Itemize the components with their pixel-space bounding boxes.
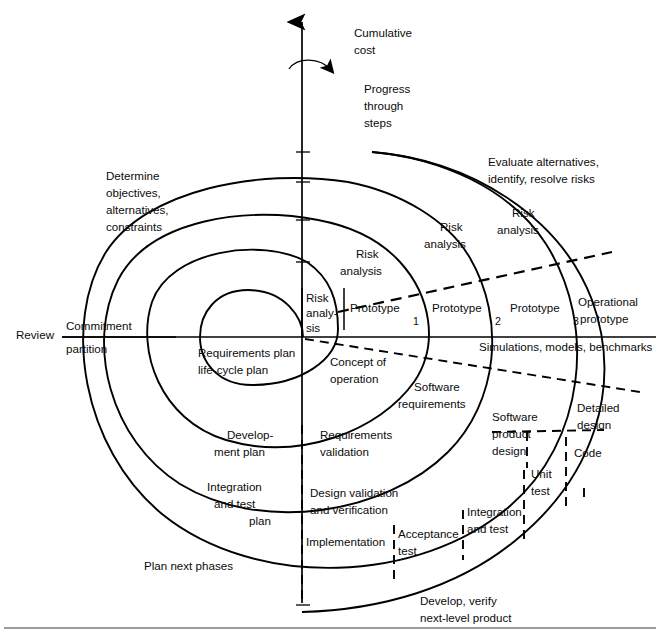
- quadrant-develop-verify-line2: next-level product: [420, 611, 512, 624]
- development-plan-line2: ment plan: [214, 445, 265, 458]
- requirements-validation-line1: Requirements: [320, 428, 392, 441]
- prototype-2-index: 2: [495, 315, 501, 327]
- commitment-label: Commitment: [66, 319, 132, 332]
- requirements-plan-line1: Requirements plan: [198, 346, 295, 359]
- risk-analysis-2-line1: Risk: [356, 247, 379, 260]
- detailed-design-line1: Detailed: [577, 401, 620, 414]
- quadrant-determine-objectives-line4: constraints: [106, 220, 162, 233]
- prototype-1-index: 1: [413, 315, 419, 327]
- prototype-1-name: Prototype: [350, 301, 400, 314]
- risk-analysis-1-line2: analy-: [306, 306, 338, 319]
- progress-arrow-icon: [289, 60, 331, 70]
- software-product-design-line1: Software: [492, 410, 538, 423]
- code-label: Code: [574, 446, 602, 459]
- cumulative-cost-label-line2: cost: [354, 43, 376, 56]
- risk-analysis-2-line2: analysis: [340, 264, 382, 277]
- partition-label: partition: [66, 342, 107, 355]
- quadrant-evaluate-alternatives-line1: Evaluate alternatives,: [488, 155, 599, 168]
- risk-analysis-1-line3: sis: [306, 321, 320, 334]
- spiral-turn-3: [104, 182, 492, 512]
- software-product-design-line3: design: [492, 444, 526, 457]
- prototype-3-index: 3: [573, 315, 579, 327]
- risk-analysis-4-line1: Risk: [512, 206, 535, 219]
- software-requirements-line2: requirements: [398, 397, 466, 410]
- quadrant-determine-objectives-line1: Determine: [106, 169, 159, 182]
- integration-and-test-line1: Integration: [467, 505, 522, 518]
- design-validation-line1: Design validation: [310, 486, 398, 499]
- review-label: Review: [16, 328, 55, 341]
- progress-label-line2: through: [364, 99, 403, 112]
- spiral-model-diagram: Cumulative cost Progress through steps D…: [0, 0, 660, 642]
- risk-analysis-4-line2: analysis: [497, 223, 539, 236]
- quadrant-determine-objectives-line2: objectives,: [106, 186, 161, 199]
- development-plan-line1: Develop-: [227, 428, 274, 441]
- progress-label-line3: steps: [364, 116, 392, 129]
- concept-of-operation-line2: operation: [330, 372, 378, 385]
- detailed-design-line2: design: [577, 418, 611, 431]
- integration-test-plan-line2: and test: [214, 497, 256, 510]
- risk-analysis-3-line1: Risk: [440, 220, 463, 233]
- progress-label-line1: Progress: [364, 82, 411, 95]
- implementation-label: Implementation: [306, 535, 385, 548]
- integration-and-test-line2: and test: [467, 522, 509, 535]
- cumulative-cost-label-line1: Cumulative: [354, 26, 412, 39]
- quadrant-evaluate-alternatives-line2: identify, resolve risks: [488, 172, 595, 185]
- risk-analysis-1-line1: Risk: [306, 291, 329, 304]
- acceptance-test-line1: Acceptance: [398, 527, 459, 540]
- simulations-label: Simulations, models, benchmarks: [479, 340, 653, 353]
- requirements-validation-line2: validation: [320, 445, 369, 458]
- quadrant-develop-verify-line1: Develop, verify: [420, 594, 497, 607]
- software-product-design-line2: product: [492, 427, 531, 440]
- unit-test-line1: Unit: [531, 467, 552, 480]
- prototype-3-name: Prototype: [510, 301, 560, 314]
- quadrant-determine-objectives-line3: alternatives,: [106, 203, 169, 216]
- spiral-turn-2: [147, 220, 429, 447]
- integration-test-plan-line1: Integration: [207, 480, 262, 493]
- software-requirements-line1: Software: [414, 380, 460, 393]
- quadrant-plan-next-phases: Plan next phases: [144, 559, 233, 572]
- operational-prototype-line2: prototype: [580, 312, 628, 325]
- risk-analysis-3-line2: analysis: [424, 237, 466, 250]
- design-validation-line2: and verification: [310, 503, 388, 516]
- integration-test-plan-line3: plan: [249, 514, 271, 527]
- requirements-plan-line2: life-cycle plan: [198, 363, 268, 376]
- acceptance-test-line2: test: [398, 544, 417, 557]
- operational-prototype-line1: Operational: [578, 295, 638, 308]
- prototype-2-name: Prototype: [432, 301, 482, 314]
- spiral-diagram-canvas: Cumulative cost Progress through steps D…: [0, 0, 660, 642]
- unit-test-line2: test: [531, 484, 550, 497]
- concept-of-operation-line1: Concept of: [330, 355, 387, 368]
